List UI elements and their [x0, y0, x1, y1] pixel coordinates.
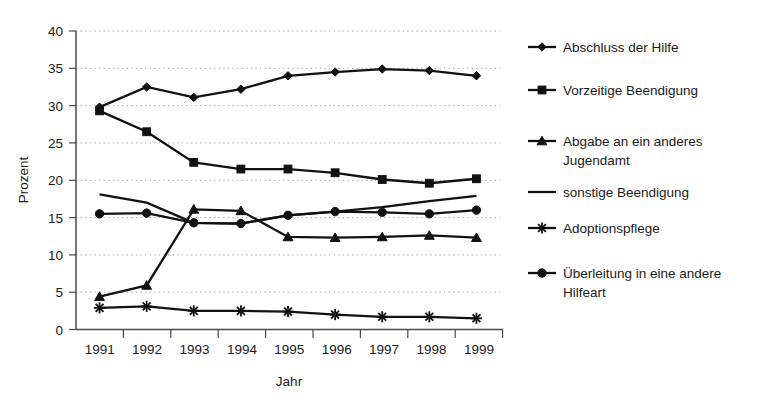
legend-item-label: Überleitung in eine andere: [563, 266, 721, 281]
series-point: [190, 158, 198, 166]
legend-item-label: Adoptionspflege: [563, 221, 660, 236]
series-point: [331, 207, 339, 215]
y-tick-label: 10: [48, 248, 63, 263]
series-point: [378, 176, 386, 184]
x-tick-label: 1998: [416, 342, 446, 357]
y-tick-label: 30: [48, 99, 63, 114]
x-tick-label: 1996: [322, 342, 352, 357]
series-point: [143, 128, 151, 136]
series-point: [190, 219, 198, 227]
legend-item-label: sonstige Beendigung: [563, 185, 689, 200]
y-axis-title: Prozent: [16, 156, 31, 203]
legend-item-label-line2: Jugendamt: [563, 153, 630, 168]
legend-item-label: Abgabe an ein anderes: [563, 134, 703, 149]
legend-item-label: Abschluss der Hilfe: [563, 40, 679, 55]
legend-item-label-line2: Hilfeart: [563, 285, 606, 300]
y-tick-label: 25: [48, 136, 63, 151]
x-tick-label: 1994: [227, 342, 258, 357]
y-tick-label: 0: [55, 323, 63, 338]
x-tick-label: 1991: [85, 342, 115, 357]
x-tick-label: 1999: [464, 342, 494, 357]
y-tick-label: 35: [48, 61, 63, 76]
y-tick-label: 15: [48, 211, 63, 226]
series-point: [472, 206, 480, 214]
y-tick-label: 20: [48, 173, 63, 188]
series-point: [237, 165, 245, 173]
series-point: [473, 175, 481, 183]
series-point: [425, 179, 433, 187]
series-point: [96, 107, 104, 115]
y-tick-label: 40: [48, 24, 63, 39]
series-point: [284, 165, 292, 173]
legend-swatch-square-icon: [538, 86, 546, 94]
chart-figure: 40 35 30 25 20 15 10 5 0 1991 1992 1993 …: [0, 0, 775, 410]
legend-swatch-circle-icon: [538, 269, 546, 277]
x-tick-label: 1993: [179, 342, 209, 357]
x-tick-label: 1995: [274, 342, 304, 357]
series-point: [378, 208, 386, 216]
series-point: [142, 209, 150, 217]
series-point: [237, 219, 245, 227]
x-tick-label: 1997: [369, 342, 399, 357]
series-point: [331, 169, 339, 177]
series-point: [425, 210, 433, 218]
x-axis-title: Jahr: [276, 374, 303, 389]
series-point: [284, 211, 292, 219]
x-tick-label: 1992: [132, 342, 162, 357]
series-point: [95, 210, 103, 218]
legend-item-label: Vorzeitige Beendigung: [563, 83, 698, 98]
y-tick-label: 5: [55, 285, 63, 300]
x-tick-labels: 1991 1992 1993 1994 1995 1996 1997 1998 …: [85, 342, 494, 357]
